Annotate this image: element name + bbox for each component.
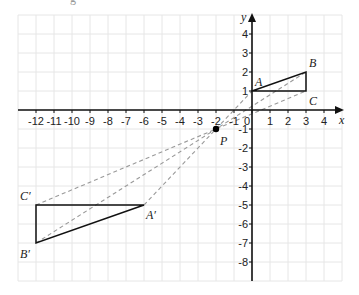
x-tick-label: 2 (285, 115, 291, 127)
point-label-c: C (309, 94, 318, 108)
x-tick-label: 3 (303, 115, 309, 127)
x-tick-label: -6 (139, 115, 149, 127)
y-axis-arrow-icon (248, 13, 256, 22)
x-tick-label: -3 (193, 115, 203, 127)
y-tick-label: 4 (242, 28, 248, 40)
y-axis-label: y (240, 10, 247, 24)
y-tick-label: 2 (242, 66, 248, 78)
x-tick-label: -12 (28, 115, 44, 127)
x-tick-label: 1 (267, 115, 273, 127)
point-label-p: P (219, 134, 228, 148)
y-tick-label: -2 (238, 142, 248, 154)
x-axis-label: x (338, 113, 345, 127)
x-tick-label: -4 (175, 115, 185, 127)
dashed-ray-b1 (36, 72, 306, 243)
x-tick-label: -9 (85, 115, 95, 127)
x-tick-label: -5 (157, 115, 167, 127)
y-tick-label: -6 (238, 218, 248, 230)
point-label-c1: C′ (20, 189, 31, 203)
dashed-projection-lines (36, 72, 306, 243)
cut-off-caption: g (70, 0, 76, 5)
y-tick-label: -3 (238, 161, 248, 173)
point-label-a: A (254, 75, 263, 89)
y-tick-label: -7 (238, 237, 248, 249)
x-tick-label: -8 (103, 115, 113, 127)
y-tick-label: 3 (242, 47, 248, 59)
y-tick-label: -5 (238, 199, 248, 211)
x-tick-label: -7 (121, 115, 131, 127)
y-tick-label: 1 (242, 85, 248, 97)
point-label-b: B (309, 56, 317, 70)
x-tick-label: -10 (64, 115, 80, 127)
y-tick-label: -1 (238, 123, 248, 135)
point-label-b1: B′ (20, 247, 30, 261)
svg-text:g: g (70, 0, 76, 5)
grid-lines (18, 15, 342, 281)
x-tick-label: 4 (321, 115, 327, 127)
y-tick-label: -4 (238, 180, 248, 192)
x-tick-label: -2 (211, 115, 221, 127)
axes: xy (18, 10, 345, 281)
x-tick-label: -11 (46, 115, 61, 127)
center-point-dot (213, 126, 219, 132)
point-label-a1: A′ (145, 208, 156, 222)
coordinate-diagram: g xy -12-11-10-9-8-7-6-5-4-3-2-101234432… (0, 0, 359, 295)
y-tick-label: -8 (238, 256, 248, 268)
